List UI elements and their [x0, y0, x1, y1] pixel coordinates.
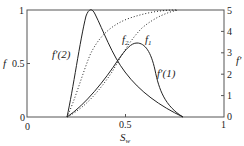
y-left-tick-1: 1 [19, 5, 24, 16]
y-right-tick-2: 2 [227, 69, 232, 80]
label-fprime-2: f′(2) [52, 48, 71, 61]
y-right-tick-5: 5 [227, 5, 232, 16]
label-f1: f1 [145, 33, 152, 47]
y-right-tick-3: 3 [227, 47, 232, 58]
y-right-label: f' [236, 54, 242, 66]
y-right-tick-4: 4 [227, 26, 232, 37]
label-f2: f2 [122, 33, 129, 47]
label-fprime-1: f′(1) [157, 67, 176, 80]
y-right-tick-1: 1 [227, 90, 232, 101]
x-tick-0: 0 [25, 121, 30, 132]
y-left-label: f [3, 57, 8, 69]
fractional-flow-chart: 1 0.5 0 f 0 0.5 1 Sw 5 4 3 2 1 0 f' f′(2… [0, 0, 244, 146]
y-left-tick-05: 0.5 [12, 58, 25, 69]
x-tick-05: 0.5 [119, 119, 132, 130]
x-tick-1: 1 [221, 119, 226, 130]
y-right-tick-0: 0 [227, 111, 232, 122]
plot-frame [27, 10, 224, 117]
series-fprime-1 [67, 43, 183, 117]
x-label: Sw [120, 131, 131, 145]
